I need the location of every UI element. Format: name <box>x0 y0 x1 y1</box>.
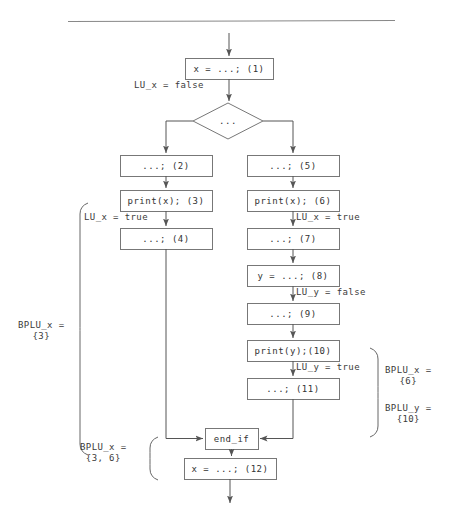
node-label-n11: print(y);(10) <box>247 340 339 361</box>
annotation-bplu-x-6: BPLU_x ={6} <box>385 365 432 387</box>
node-label-n7: ...; (4) <box>120 228 212 249</box>
node-label-n8: ...; (7) <box>247 228 339 249</box>
node-label-n1: x = ...; (1) <box>185 58 273 79</box>
annotation-bplu-x-6-line2: {6} <box>385 376 432 387</box>
top-horizontal-rule <box>68 21 395 22</box>
flowchart-diagram: x = ...; (1)......; (2)...; (5)print(x);… <box>0 0 463 525</box>
edge-n11-to-end-if <box>260 399 293 439</box>
brace-left-small <box>150 437 158 480</box>
node-label-n9: y = ...; (8) <box>247 265 339 286</box>
node-label-n3: ...; (2) <box>120 155 212 176</box>
edge-decision-to-n2 <box>166 121 193 153</box>
node-label-n4: ...; (5) <box>247 155 339 176</box>
edge-label-lu-y-false: LU_y = false <box>296 287 366 298</box>
node-label-n6: print(x); (6) <box>247 190 339 211</box>
annotation-bplu-x-3-6: BPLU_x ={3, 6} <box>80 442 127 464</box>
edge-decision-to-n5 <box>263 121 293 153</box>
node-label-n10: ...; (9) <box>247 303 339 324</box>
edge-n4-to-end-if <box>166 249 203 439</box>
annotation-bplu-x-3: BPLU_x ={3} <box>18 320 65 342</box>
annotation-bplu-x-3-6-line1: BPLU_x = <box>80 442 127 453</box>
node-label-n12: ...; (11) <box>247 378 339 399</box>
node-label-n13: end_if <box>205 428 258 449</box>
annotation-bplu-y-10-line1: BPLU_y = <box>385 403 432 414</box>
edge-label-lu-x-true-right: LU_x = true <box>296 212 360 223</box>
brace-right <box>370 348 378 437</box>
annotation-bplu-y-10-line2: {10} <box>385 414 432 425</box>
edge-label-lu-x-false-1: LU_x = false <box>134 80 204 91</box>
edge-label-lu-x-true-left: LU_x = true <box>84 212 148 223</box>
node-label-n5: print(x); (3) <box>120 190 212 211</box>
brace-left-tall <box>80 203 88 455</box>
node-label-n14: x = ...; (12) <box>184 458 276 479</box>
annotation-bplu-x-3-line1: BPLU_x = <box>18 320 65 331</box>
node-label-n2: ... <box>193 103 263 139</box>
annotation-bplu-x-6-line1: BPLU_x = <box>385 365 432 376</box>
annotation-bplu-y-10: BPLU_y ={10} <box>385 403 432 425</box>
annotation-bplu-x-3-6-line2: {3, 6} <box>80 453 127 464</box>
annotation-bplu-x-3-line2: {3} <box>18 331 65 342</box>
edge-label-lu-y-true: LU_y = true <box>296 362 360 373</box>
